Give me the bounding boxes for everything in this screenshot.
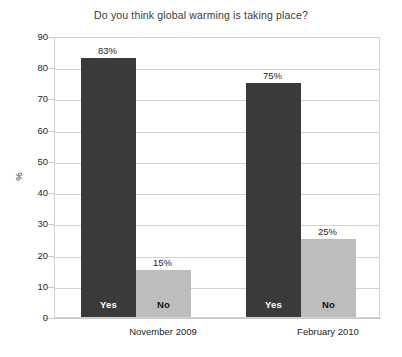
bar-value-label: 75% (238, 70, 308, 81)
y-axis-tick-label: 70 (22, 93, 48, 104)
bar-inner-label: Yes (246, 299, 301, 310)
y-axis-tick-label: 40 (22, 187, 48, 198)
y-axis-tick-label: 80 (22, 62, 48, 73)
bar-no-group-0[interactable]: No (136, 270, 191, 317)
bar-no-group-1[interactable]: No (301, 239, 356, 317)
bar-yes-group-1[interactable]: Yes (246, 83, 301, 317)
y-axis-title: % (13, 172, 24, 180)
bar-inner-label: No (301, 299, 356, 310)
x-axis-line (44, 318, 381, 319)
bar-value-label: 25% (293, 226, 363, 237)
y-axis-tick-label: 90 (22, 31, 48, 42)
plot-area: YesNoYesNo (54, 37, 380, 318)
y-axis-tick-label: 10 (22, 281, 48, 292)
x-axis-category-label: November 2009 (93, 326, 233, 337)
y-axis-tick-mark (48, 318, 54, 319)
bar-inner-label: No (136, 299, 191, 310)
x-axis-category-label: February 2010 (258, 326, 398, 337)
chart-root: Do you think global warming is taking pl… (0, 0, 402, 357)
bar-value-label: 15% (128, 257, 198, 268)
y-axis-tick-label: 50 (22, 156, 48, 167)
bar-inner-label: Yes (81, 299, 136, 310)
bar-value-label: 83% (73, 45, 143, 56)
y-axis-tick-label: 0 (22, 312, 48, 323)
bar-yes-group-0[interactable]: Yes (81, 58, 136, 317)
y-axis-tick-label: 60 (22, 125, 48, 136)
y-axis-tick-label: 20 (22, 250, 48, 261)
y-axis-tick-label: 30 (22, 218, 48, 229)
chart-title: Do you think global warming is taking pl… (0, 9, 402, 21)
